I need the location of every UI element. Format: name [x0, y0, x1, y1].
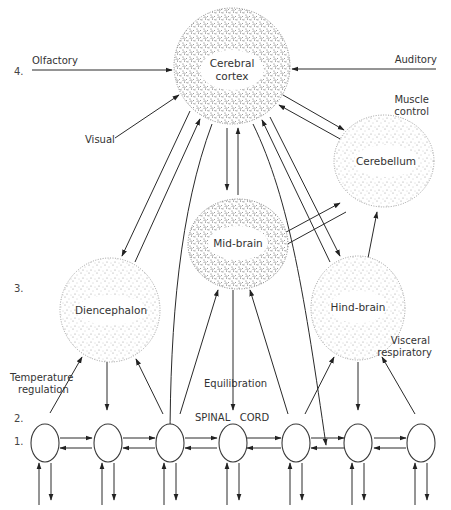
spinal-to-midbrain-left-arrow [180, 290, 218, 414]
mid-brain-node: Mid-brain [188, 199, 288, 289]
segment-io [39, 463, 427, 505]
cerebellum-label: Cerebellum [356, 155, 416, 167]
spinal-segment-5 [282, 424, 310, 462]
diencephalon-label: Diencephalon [75, 304, 147, 316]
spinal-to-hindbrain-left-arrow [305, 357, 334, 414]
hindbrain-to-cerebellum-arrow [368, 212, 377, 258]
cortex-to-diencephalon-arrow [122, 111, 190, 256]
level-2-label: 2. [14, 413, 24, 424]
cerebral-cortex-label-line1: Cerebral [210, 57, 255, 69]
spinal-segment-3 [156, 424, 184, 462]
auditory-label: Auditory [395, 54, 437, 65]
visual-arrow [115, 95, 179, 138]
cerebral-cortex-node: Cerebral cortex [174, 8, 290, 124]
cerebral-cortex-label-line2: cortex [215, 70, 248, 82]
visceral-label-line1: Visceral [391, 335, 430, 346]
spinal-segment-4 [219, 424, 247, 462]
muscle-control-label-line2: control [394, 106, 429, 117]
level-1-label: 1. [14, 436, 24, 447]
spinal-segment-1 [31, 424, 59, 462]
spinal-cord-label: SPINAL CORD [195, 412, 270, 423]
spinal-to-hindbrain-right-arrow [382, 357, 415, 414]
temperature-label-line1: Temperature [9, 372, 73, 383]
hind-brain-label: Hind-brain [331, 301, 386, 313]
level-3-label: 3. [14, 283, 24, 294]
spinal-segment-7 [407, 424, 435, 462]
temperature-label-line2: regulation [18, 384, 69, 395]
diagram-canvas: 4. 3. 2. 1. [0, 0, 451, 510]
visceral-label-line2: respiratory [377, 347, 432, 358]
spinal-to-diencephalon-arrow [136, 359, 163, 414]
olfactory-label: Olfactory [32, 55, 78, 66]
visual-label: Visual [85, 134, 115, 145]
spinal-to-midbrain-right-arrow [250, 290, 288, 414]
mid-brain-label: Mid-brain [213, 237, 262, 249]
diencephalon-node: Diencephalon [60, 258, 160, 362]
level-4-label: 4. [14, 66, 24, 77]
spinal-cord-segments [31, 424, 435, 505]
cerebellum-node: Cerebellum [334, 115, 434, 207]
spinal-segment-6 [344, 424, 372, 462]
cortex-to-spinal-right-curve [253, 124, 326, 445]
equilibration-label: Equilibration [204, 378, 267, 389]
spinal-segment-2 [94, 424, 122, 462]
muscle-control-label-line1: Muscle [394, 94, 429, 105]
